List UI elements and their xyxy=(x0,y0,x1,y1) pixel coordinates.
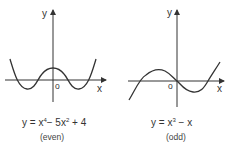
odd-y-label: y xyxy=(167,7,172,18)
even-eq-term2-exp: 2 xyxy=(66,117,69,123)
odd-eq-term1-exp: 3 xyxy=(172,117,175,123)
even-eq-lhs: y = xyxy=(22,117,36,128)
odd-equation: y = x3 − x xyxy=(151,117,192,128)
even-y-label: y xyxy=(42,8,47,19)
odd-x-label: x xyxy=(217,83,222,94)
even-origin-label: o xyxy=(55,81,60,91)
even-x-label: x xyxy=(97,83,102,94)
even-eq-term2: − 5x xyxy=(47,117,66,128)
odd-origin-label: o xyxy=(168,81,173,91)
even-equation: y = x4− 5x2 + 4 xyxy=(22,117,86,128)
odd-eq-lhs: y = xyxy=(151,117,165,128)
odd-eq-term2: − x xyxy=(179,117,193,128)
even-eq-term3: + 4 xyxy=(72,117,86,128)
odd-graph: y x o xyxy=(128,7,224,107)
even-parity-label: (even) xyxy=(40,132,64,142)
odd-parity-label: (odd) xyxy=(166,132,186,142)
even-graph: y x o xyxy=(5,8,106,102)
